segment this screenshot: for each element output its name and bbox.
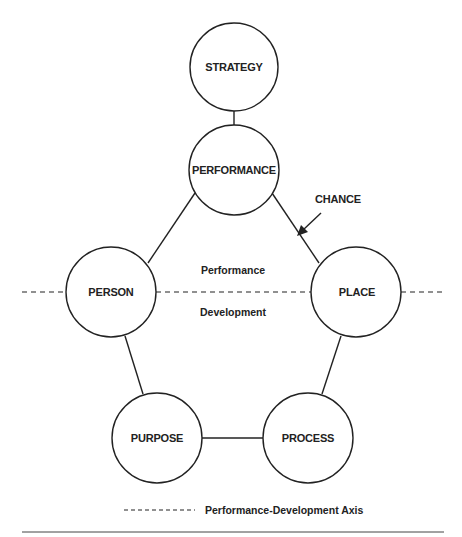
edge-performance-person (148, 193, 195, 263)
node-person-label: PERSON (88, 286, 134, 298)
node-performance-label: PERFORMANCE (192, 164, 276, 176)
legend-axis-label: Performance-Development Axis (205, 504, 363, 516)
node-process-label: PROCESS (282, 432, 334, 444)
edge-place-process (322, 336, 341, 394)
performance-region-label: Performance (201, 264, 265, 276)
node-purpose-label: PURPOSE (131, 432, 183, 444)
edge-person-purpose (125, 336, 143, 394)
edge-performance-place (272, 193, 319, 263)
chance-arrow-icon (297, 213, 321, 236)
chance-label: CHANCE (315, 193, 361, 205)
development-region-label: Development (200, 306, 266, 318)
node-strategy-label: STRATEGY (205, 61, 263, 73)
diagram-canvas: STRATEGY PERFORMANCE PERSON PLACE PURPOS… (0, 0, 462, 537)
node-place-label: PLACE (339, 286, 375, 298)
